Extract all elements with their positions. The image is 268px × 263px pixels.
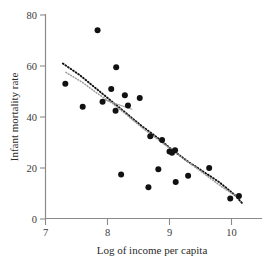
- y-tick-label-60: 60: [27, 61, 38, 72]
- data-point: [236, 193, 242, 199]
- x-tick-label-10: 10: [226, 227, 237, 238]
- chart-figure: 80 60 40 20 0 7 8 9 10 Log of income per…: [0, 0, 268, 263]
- data-point: [62, 81, 68, 87]
- y-tick-label-80: 80: [27, 10, 38, 21]
- y-tick-labels: 80 60 40 20 0: [27, 10, 38, 225]
- x-tick-label-8: 8: [105, 227, 110, 238]
- data-point: [155, 166, 161, 172]
- y-tick-label-40: 40: [27, 112, 38, 123]
- data-point: [159, 137, 165, 143]
- data-point: [95, 27, 101, 33]
- x-tick-label-9: 9: [167, 227, 172, 238]
- x-axis-ticks: [46, 219, 232, 225]
- data-point: [185, 173, 191, 179]
- y-tick-label-20: 20: [27, 163, 38, 174]
- data-point: [118, 171, 124, 177]
- data-point: [80, 104, 86, 110]
- y-axis-title: Infant mortality rate: [8, 73, 20, 162]
- data-point: [122, 92, 128, 98]
- data-point: [108, 86, 114, 92]
- data-point: [125, 103, 131, 109]
- data-point: [113, 64, 119, 70]
- data-point: [100, 99, 106, 105]
- x-tick-label-7: 7: [43, 227, 48, 238]
- data-point: [206, 165, 212, 171]
- scatter-plot-svg: 80 60 40 20 0 7 8 9 10 Log of income per…: [0, 0, 268, 263]
- axes-group: [45, 14, 262, 219]
- x-axis-title: Log of income per capita: [97, 244, 208, 256]
- data-point: [145, 184, 151, 190]
- x-tick-labels: 7 8 9 10: [43, 227, 237, 238]
- data-point: [172, 147, 178, 153]
- y-tick-label-0: 0: [32, 214, 37, 225]
- fit-lines-group: [63, 63, 243, 203]
- data-point: [113, 108, 119, 114]
- data-point: [137, 95, 143, 101]
- data-points-group: [62, 27, 242, 201]
- data-point: [173, 179, 179, 185]
- data-point: [147, 133, 153, 139]
- data-point: [227, 196, 233, 202]
